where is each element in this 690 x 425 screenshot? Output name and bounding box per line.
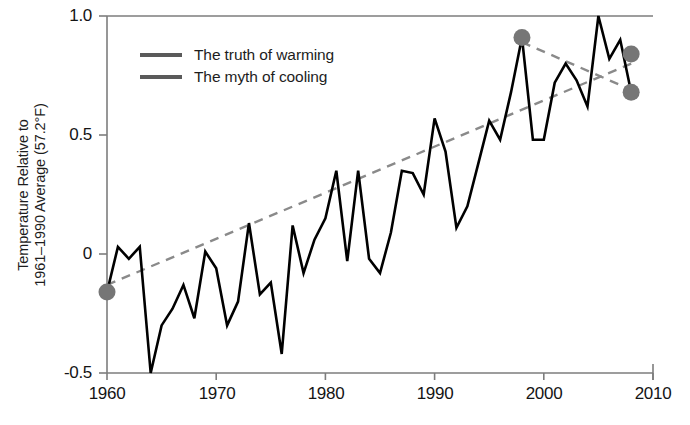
marker-2008-cooling-endpoint — [623, 84, 640, 101]
marker-1998-peak-point — [513, 29, 530, 46]
plot-area — [0, 0, 690, 425]
series-line-0 — [107, 16, 631, 373]
marker-start-point — [99, 284, 116, 301]
data-line — [107, 16, 631, 373]
marker-2008-warming-endpoint — [623, 46, 640, 63]
temperature-anomaly-chart: Temperature Relative to 1961–1990 Averag… — [0, 0, 690, 425]
